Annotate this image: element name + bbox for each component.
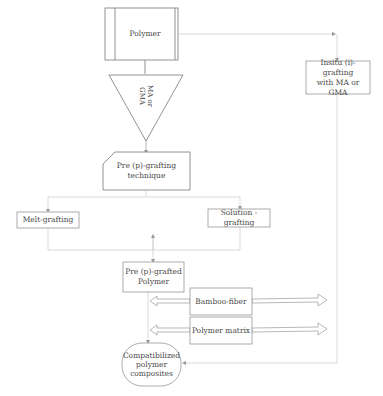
polymer-matrix-label: Polymer matrix	[190, 317, 252, 344]
compatibilized-line2: polymer	[136, 360, 167, 369]
grafting-agent-line1: MA or	[146, 85, 154, 107]
polymer-label: Polymer	[115, 10, 175, 58]
compatibilized-line3: composites	[130, 369, 173, 378]
grafting-agent-label: MA or GMA	[134, 76, 158, 116]
insitu-line1: Insitu (i)-grafting	[306, 58, 370, 78]
pre-grafted-polymer-label: Pre (p)-grafted Polymer	[123, 262, 184, 292]
bamboo-fiber-label: Bamboo-fiber	[190, 288, 252, 315]
grafting-agent-line2: GMA	[138, 87, 146, 105]
insitu-grafting-label: Insitu (i)-grafting with MA or GMA	[306, 61, 370, 94]
pre-grafted-line2: Polymer	[138, 277, 169, 287]
pre-grafting-technique-label: Pre (p)-grafting technique	[103, 156, 190, 186]
pre-grafting-line2: technique	[128, 171, 166, 181]
insitu-line2: with MA or GMA	[306, 78, 370, 98]
compatibilized-line1: Compatibilized	[123, 351, 180, 360]
melt-grafting-label: Melt-grafting	[17, 212, 79, 228]
compatibilized-composites-label: Compatibilized polymer composites	[122, 343, 181, 386]
solution-grafting-label: Solution -grafting	[208, 209, 270, 227]
pre-grafted-line1: Pre (p)-grafted	[125, 267, 182, 277]
pre-grafting-line1: Pre (p)-grafting	[117, 161, 176, 171]
